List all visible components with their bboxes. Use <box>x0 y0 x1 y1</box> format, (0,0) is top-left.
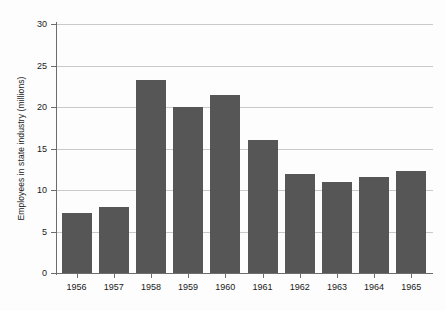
x-tick-label-1956: 1956 <box>66 282 86 292</box>
bar-1956[interactable] <box>62 213 92 273</box>
x-tick-1959 <box>188 273 189 278</box>
y-tick-label-30: 30 <box>18 19 47 29</box>
y-tick-label-20: 20 <box>18 102 47 112</box>
x-tick-label-1965: 1965 <box>401 282 421 292</box>
x-tick-label-1964: 1964 <box>364 282 384 292</box>
y-tick-label-wrap: 30 <box>18 24 47 25</box>
x-tick-1958 <box>151 273 152 278</box>
x-tick-1962 <box>300 273 301 278</box>
x-tick-1965 <box>411 273 412 278</box>
y-tick-0 <box>51 273 57 274</box>
y-tick-20 <box>51 107 57 108</box>
gridline-15 <box>57 149 433 150</box>
y-tick-25 <box>51 66 57 67</box>
x-tick-label-1959: 1959 <box>178 282 198 292</box>
y-tick-10 <box>51 190 57 191</box>
x-tick-1963 <box>337 273 338 278</box>
y-tick-15 <box>51 149 57 150</box>
y-tick-label-wrap: 0 <box>18 273 47 274</box>
x-tick-label-1960: 1960 <box>215 282 235 292</box>
gridline-20 <box>57 107 433 108</box>
gridline-25 <box>57 66 433 67</box>
x-tick-1964 <box>374 273 375 278</box>
y-tick-label-25: 25 <box>18 61 47 71</box>
gridline-30 <box>57 24 433 25</box>
bar-1963[interactable] <box>322 182 352 273</box>
y-tick-label-5: 5 <box>18 227 47 237</box>
y-tick-label-10: 10 <box>18 185 47 195</box>
plot-area <box>57 24 433 273</box>
bar-1964[interactable] <box>359 177 389 273</box>
y-tick-label-0: 0 <box>18 268 47 278</box>
y-tick-label-wrap: 20 <box>18 107 47 108</box>
bar-1960[interactable] <box>210 95 240 273</box>
bar-1959[interactable] <box>173 107 203 273</box>
bar-1958[interactable] <box>136 80 166 273</box>
bar-1961[interactable] <box>248 140 278 273</box>
x-tick-1957 <box>114 273 115 278</box>
bar-1962[interactable] <box>285 174 315 273</box>
x-tick-1960 <box>225 273 226 278</box>
y-tick-30 <box>51 24 57 25</box>
y-tick-label-15: 15 <box>18 144 47 154</box>
x-tick-label-1963: 1963 <box>327 282 347 292</box>
x-tick-1956 <box>77 273 78 278</box>
bar-chart: Employees in state industry (millions) 0… <box>0 0 446 311</box>
x-tick-label-1961: 1961 <box>252 282 272 292</box>
y-tick-label-wrap: 10 <box>18 190 47 191</box>
y-tick-label-wrap: 15 <box>18 149 47 150</box>
y-tick-label-wrap: 5 <box>18 232 47 233</box>
bar-1965[interactable] <box>396 171 426 273</box>
y-tick-5 <box>51 232 57 233</box>
x-tick-label-1962: 1962 <box>290 282 310 292</box>
x-tick-label-1958: 1958 <box>141 282 161 292</box>
y-tick-label-wrap: 25 <box>18 66 47 67</box>
x-tick-1961 <box>263 273 264 278</box>
bar-1957[interactable] <box>99 207 129 273</box>
x-tick-label-1957: 1957 <box>104 282 124 292</box>
